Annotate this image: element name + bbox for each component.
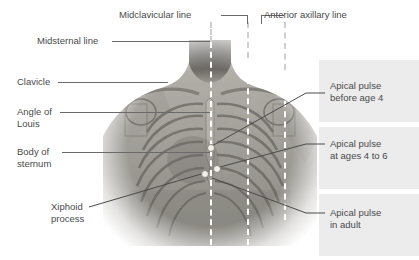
marker-apical-pulse-adult [201, 170, 209, 178]
label-midsternal-line: Midsternal line [37, 35, 98, 47]
label-apical-pulse-ages-4-to-6: Apical pulse at ages 4 to 6 [330, 138, 388, 162]
label-apical-pulse-before-age-4: Apical pulse before age 4 [330, 80, 383, 104]
anatomy-figure: Midclavicular line Anterior axillary lin… [0, 0, 419, 260]
leader-apical-ages-4-to-6-diagonal [216, 144, 306, 168]
marker-apical-pulse-before-age-4 [207, 144, 215, 152]
marker-apical-pulse-ages-4-to-6 [213, 165, 221, 173]
label-clavicle: Clavicle [17, 76, 50, 88]
label-anterior-axillary-line: Anterior axillary line [264, 9, 347, 21]
label-body-of-sternum: Body of sternum [17, 146, 51, 170]
leader-apical-adult-diagonal [212, 178, 306, 213]
label-apical-pulse-adult: Apical pulse in adult [330, 207, 381, 231]
label-midclavicular-line: Midclavicular line [119, 9, 191, 21]
leader-apical-before-age-4-diagonal [210, 93, 306, 147]
label-xiphoid-process: Xiphoid process [51, 201, 84, 225]
label-angle-of-louis: Angle of Louis [17, 106, 52, 130]
